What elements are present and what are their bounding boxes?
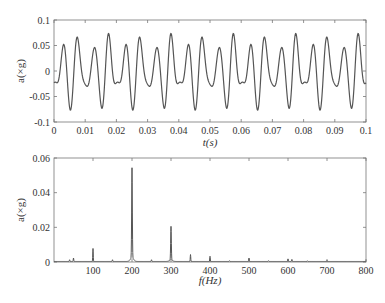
x-tick-label: 100 [86, 265, 101, 276]
x-tick-label: 0.05 [201, 125, 219, 136]
bottom-x-ticks: 100200300400500600700800 [86, 158, 374, 276]
y-tick-label: 0.05 [33, 40, 51, 51]
y-tick-label: 0.04 [33, 187, 51, 198]
x-tick-label: 0 [52, 125, 57, 136]
spectrum-line [54, 168, 366, 262]
x-tick-label: 0.03 [139, 125, 157, 136]
top-x-ticks: 00.010.020.030.040.050.060.070.080.090.1 [52, 20, 373, 136]
y-tick-label: 0 [45, 257, 50, 268]
acceleration-waveform [54, 34, 366, 111]
x-tick-label: 600 [281, 265, 296, 276]
x-tick-label: 500 [242, 265, 257, 276]
bottom-x-axis-label: f(Hz) [199, 274, 222, 287]
top-x-axis-label: t(s) [203, 136, 218, 149]
bottom-y-ticks: 0.060.040.020 [33, 153, 367, 268]
x-tick-label: 0.01 [76, 125, 94, 136]
top-y-ticks: 0.10.050-0.05-0.1 [29, 15, 366, 128]
x-tick-label: 0.06 [232, 125, 250, 136]
x-tick-label: 0.08 [295, 125, 313, 136]
y-tick-label: 0.1 [38, 15, 51, 26]
bottom-plot-frame [54, 158, 366, 262]
x-tick-label: 700 [320, 265, 335, 276]
x-tick-label: 0.04 [170, 125, 188, 136]
x-tick-label: 300 [164, 265, 179, 276]
x-tick-label: 0.09 [326, 125, 344, 136]
x-tick-label: 0.1 [360, 125, 373, 136]
y-tick-label: 0 [45, 66, 50, 77]
y-tick-label: -0.05 [29, 91, 50, 102]
y-tick-label: -0.1 [34, 117, 50, 128]
x-tick-label: 0.02 [108, 125, 126, 136]
x-tick-label: 0.07 [264, 125, 282, 136]
time-domain-chart: 0.10.050-0.05-0.1 00.010.020.030.040.050… [14, 15, 372, 150]
y-tick-label: 0.02 [33, 222, 51, 233]
figure: 0.10.050-0.05-0.1 00.010.020.030.040.050… [0, 0, 385, 303]
y-tick-label: 0.06 [33, 153, 51, 164]
bottom-y-axis-label: a(×g) [14, 198, 27, 222]
top-y-axis-label: a(×g) [14, 59, 27, 83]
frequency-spectrum-chart: 0.060.040.020 100200300400500600700800 a… [14, 153, 374, 288]
x-tick-label: 800 [359, 265, 374, 276]
x-tick-label: 200 [125, 265, 140, 276]
